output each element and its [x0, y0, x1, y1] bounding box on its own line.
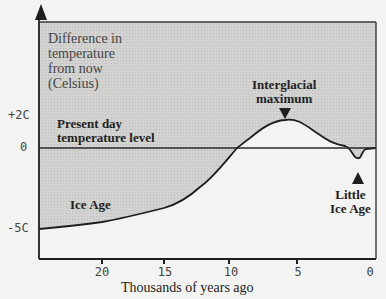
- ytick-zero: 0: [20, 140, 27, 154]
- y-axis-label-line: temperature: [48, 46, 122, 61]
- little-ice-age-label-line: Little: [330, 188, 371, 202]
- interglacial-maximum-label: Interglacial maximum: [252, 78, 316, 106]
- y-axis-arrow-icon: [35, 4, 47, 20]
- ytick-minus5: -5C: [7, 221, 29, 235]
- xtick-10: 10: [224, 265, 238, 279]
- y-axis-label-line: Difference in: [48, 31, 122, 46]
- interglacial-label-line: maximum: [252, 92, 316, 106]
- interglacial-label-line: Interglacial: [252, 78, 316, 92]
- little-ice-age-marker-icon: [352, 172, 364, 184]
- y-axis-label-line: from now: [48, 61, 122, 76]
- present-day-label: Present day temperature level: [57, 117, 155, 145]
- present-day-label-line: Present day: [57, 117, 155, 131]
- y-axis-label-line: (Celsius): [48, 76, 122, 91]
- x-axis-label: Thousands of years ago: [121, 280, 254, 296]
- ytick-plus2: +2C: [8, 108, 30, 122]
- xtick-0: 0: [366, 265, 373, 279]
- xtick-5: 5: [294, 265, 301, 279]
- little-ice-age-label-line: Ice Age: [330, 202, 371, 216]
- present-day-label-line: temperature level: [57, 131, 155, 145]
- little-ice-age-label: Little Ice Age: [330, 188, 371, 216]
- xtick-20: 20: [95, 265, 109, 279]
- y-axis-label: Difference in temperature from now (Cels…: [48, 31, 122, 91]
- ice-age-label: Ice Age: [70, 198, 111, 212]
- xtick-15: 15: [158, 265, 172, 279]
